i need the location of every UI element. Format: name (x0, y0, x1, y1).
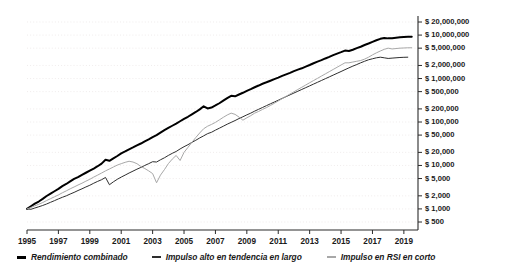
legend-label-rsi: Impulso en RSI en corto (341, 252, 436, 262)
grid-lines (27, 22, 418, 222)
legend-label-trend: Impulso alto en tendencia en largo (166, 252, 302, 262)
x-axis-label: 2003 (144, 237, 163, 245)
x-axis-label: 2015 (332, 237, 351, 245)
legend-item-combined[interactable]: Rendimiento combinado (17, 252, 128, 262)
x-axis-label: 2007 (206, 237, 225, 245)
y-axis-label: $ 5,000,000 (425, 43, 465, 52)
chart-legend: Rendimiento combinado Impulso alto en te… (0, 246, 517, 277)
legend-swatch-rsi-icon (327, 256, 336, 258)
y-axis-ticks: $ 20,000,000$ 10,000,000$ 5,000,000$ 2,0… (418, 17, 469, 226)
x-axis-label: 1995 (18, 237, 37, 245)
y-axis-label: $ 20,000 (425, 147, 455, 156)
y-axis-label: $ 1,000 (425, 204, 450, 213)
y-axis-label: $ 200,000 (425, 104, 459, 113)
x-axis-label: 2011 (269, 237, 287, 245)
legend-label-combined: Rendimiento combinado (31, 252, 128, 262)
legend-swatch-combined-icon (17, 256, 26, 259)
y-axis-label: $ 20,000,000 (425, 17, 469, 26)
y-axis-label: $ 100,000 (425, 117, 459, 126)
x-axis-label: 1999 (81, 237, 100, 245)
y-axis-label: $ 10,000 (425, 160, 455, 169)
legend-item-rsi[interactable]: Impulso en RSI en corto (327, 252, 436, 262)
plot-area: $ 20,000,000$ 10,000,000$ 5,000,000$ 2,0… (0, 0, 517, 245)
x-axis-label: 2017 (363, 237, 382, 245)
y-axis-label: $ 1,000,000 (425, 74, 465, 83)
y-axis-label: $ 5,000 (425, 174, 450, 183)
legend-swatch-trend-icon (152, 256, 161, 258)
x-axis-label: 1997 (49, 237, 68, 245)
y-axis-label: $ 10,000,000 (425, 30, 469, 39)
legend-item-trend[interactable]: Impulso alto en tendencia en largo (152, 252, 302, 262)
equity-curve-chart: $ 20,000,000$ 10,000,000$ 5,000,000$ 2,0… (0, 0, 517, 277)
x-axis-label: 2001 (112, 237, 131, 245)
x-axis-label: 2019 (395, 237, 414, 245)
series-group (27, 37, 412, 210)
chart-canvas: $ 20,000,000$ 10,000,000$ 5,000,000$ 2,0… (0, 0, 517, 245)
x-axis-label: 2009 (238, 237, 257, 245)
y-axis-label: $ 50,000 (425, 130, 455, 139)
y-axis-label: $ 500,000 (425, 87, 459, 96)
x-axis-label: 2013 (301, 237, 320, 245)
x-axis-label: 2005 (175, 237, 194, 245)
y-axis-label: $ 500 (425, 217, 444, 226)
y-axis-label: $ 2,000 (425, 191, 450, 200)
series-line-combined (27, 37, 412, 209)
series-line-trend (27, 57, 408, 209)
x-axis-ticks: 1995199719992001200320052007200920112013… (18, 230, 414, 245)
y-axis-label: $ 2,000,000 (425, 60, 465, 69)
